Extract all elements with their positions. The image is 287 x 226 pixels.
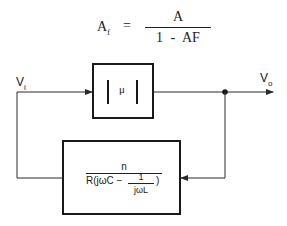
equals-sign: =: [123, 18, 131, 34]
inner-fraction: 1 jωL: [128, 172, 154, 195]
fraction-bar: [145, 27, 211, 28]
equation-lhs: Af: [97, 19, 110, 35]
feedback-numerator: n: [86, 161, 162, 172]
feedback-denominator-prefix: R(jωC −: [86, 175, 122, 186]
inner-denominator: jωL: [128, 185, 154, 195]
input-signal-label: Vi: [16, 76, 26, 88]
feedback-denominator-suffix: ): [156, 175, 159, 186]
output-signal-label: Vo: [260, 72, 272, 84]
forward-gain-label: μ: [119, 83, 125, 95]
equation-denominator: 1 - AF: [145, 30, 211, 46]
inner-numerator: 1: [128, 172, 154, 182]
equation-numerator: A: [145, 9, 211, 25]
inner-fraction-bar: [128, 183, 154, 184]
feedback-transfer-function: n R(jωC − 1 jωL ): [86, 161, 162, 195]
gain-equation: Af = A 1 - AF: [97, 6, 227, 46]
